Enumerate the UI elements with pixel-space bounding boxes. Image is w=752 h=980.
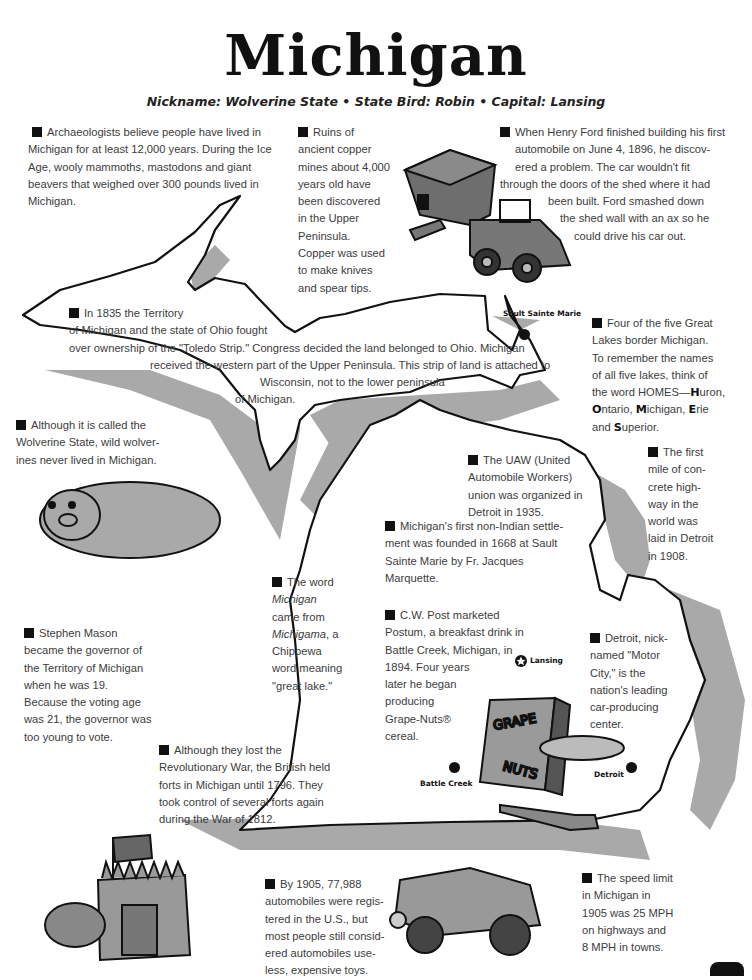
detroit-marker — [626, 762, 637, 773]
fact-concrete-highway: The first mile of con- crete high- way i… — [648, 444, 748, 565]
page-corner-badge — [710, 962, 744, 976]
city-label-detroit: Detroit — [594, 770, 624, 779]
bullet-icon — [582, 873, 592, 883]
bullet-icon — [16, 420, 26, 430]
battle-creek-marker — [449, 762, 460, 773]
bullet-icon — [648, 447, 658, 457]
city-label-lansing: Lansing — [530, 656, 563, 665]
bullet-icon — [159, 745, 169, 755]
fact-speed-limit: The speed limit in Michigan in 1905 was … — [582, 870, 692, 956]
fact-uaw: The UAW (United Automobile Workers) unio… — [468, 452, 588, 521]
bullet-icon — [468, 455, 478, 465]
fact-cw-post: C.W. Post marketed Postum, a breakfast d… — [385, 607, 525, 745]
wolverine-illustration — [40, 482, 220, 558]
fact-great-lakes: Four of the five Great Lakes border Mich… — [592, 315, 752, 436]
bullet-icon — [272, 577, 282, 587]
fact-wolverine: Although it is called the Wolverine Stat… — [16, 417, 196, 469]
fact-copper: Ruins of ancient copper mines about 4,00… — [298, 124, 408, 297]
fact-henry-ford: When Henry Ford finished building his fi… — [500, 124, 750, 245]
bullet-icon — [69, 308, 79, 318]
city-label-battle-creek: Battle Creek — [420, 779, 473, 788]
fact-motor-city: Detroit, nick- named "Motor City," is th… — [590, 630, 690, 734]
bullet-icon — [24, 628, 34, 638]
fact-first-settlement: Michigan's first non-Indian settle- ment… — [385, 518, 565, 587]
bullet-icon — [385, 610, 395, 620]
bullet-icon — [500, 127, 510, 137]
fort-illustration — [45, 835, 190, 960]
old-car-illustration — [390, 868, 540, 955]
bullet-icon — [298, 127, 308, 137]
fact-word-michigan: The word Michigan came from Michigama, a… — [272, 574, 362, 695]
bullet-icon — [385, 521, 395, 531]
bullet-icon — [265, 879, 275, 889]
fact-stephen-mason: Stephen Mason became the governor of the… — [24, 625, 164, 746]
fact-british-forts: Although they lost the Revolutionary War… — [159, 742, 339, 828]
fact-archaeologists: Archaeologists believe people have lived… — [28, 124, 288, 210]
bullet-icon — [592, 318, 602, 328]
bullet-icon — [32, 127, 42, 137]
bullet-icon — [590, 633, 600, 643]
fact-automobiles-1905: By 1905, 77,988 automobiles were regis- … — [265, 876, 395, 980]
fact-toledo-strip: In 1835 the Territory of Michigan and th… — [69, 305, 589, 409]
